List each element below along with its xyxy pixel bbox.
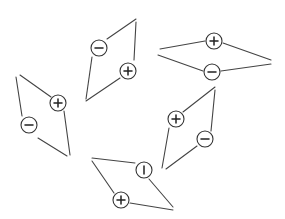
edge-line bbox=[86, 78, 120, 101]
edge-line bbox=[183, 87, 215, 112]
edge-line bbox=[160, 41, 205, 49]
plus-charge-icon bbox=[50, 95, 66, 111]
edge-line bbox=[211, 90, 215, 131]
edge-line bbox=[221, 64, 271, 71]
plus-charge-icon bbox=[206, 33, 222, 49]
minus-charge-icon bbox=[91, 40, 107, 56]
edge-line bbox=[107, 19, 136, 39]
plus-charge-icon bbox=[120, 63, 136, 79]
edge-line bbox=[92, 161, 114, 193]
shape-top-center bbox=[86, 19, 136, 101]
edge-line bbox=[134, 22, 136, 60]
edge-line bbox=[38, 138, 67, 156]
bar-charge-icon bbox=[136, 162, 152, 178]
shape-left bbox=[16, 75, 70, 156]
edge-line bbox=[162, 128, 169, 168]
charge-diagram bbox=[0, 0, 285, 219]
minus-charge-icon bbox=[204, 64, 220, 80]
edge-line bbox=[20, 75, 51, 97]
edge-line bbox=[16, 77, 22, 116]
plus-charge-icon bbox=[168, 111, 184, 127]
minus-charge-icon bbox=[21, 117, 37, 133]
edge-line bbox=[92, 158, 135, 163]
edge-line bbox=[223, 43, 271, 60]
shape-top-right bbox=[158, 33, 271, 80]
plus-charge-icon bbox=[113, 192, 129, 208]
edge-line bbox=[149, 179, 173, 207]
edge-line bbox=[64, 111, 70, 155]
shape-bottom bbox=[92, 158, 173, 210]
shape-right-middle bbox=[162, 87, 215, 169]
edge-line bbox=[130, 203, 173, 210]
edge-line bbox=[86, 57, 92, 99]
minus-charge-icon bbox=[197, 131, 213, 147]
edge-line bbox=[166, 146, 197, 169]
edge-line bbox=[158, 55, 203, 71]
